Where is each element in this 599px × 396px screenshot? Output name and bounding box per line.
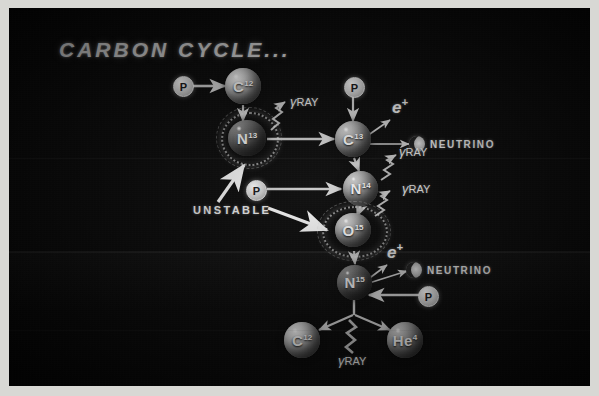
- proton-into-n15[interactable]: P: [418, 286, 439, 307]
- lighting-seam: [9, 252, 590, 310]
- proton-label: P: [351, 82, 358, 94]
- proton-into-c13[interactable]: P: [344, 77, 365, 98]
- positron-c13-label: e+: [392, 96, 408, 118]
- sphere-highlight: [343, 219, 349, 223]
- neutrino-n15-label: NEUTRINO: [427, 265, 492, 276]
- neutrino-c13-label: NEUTRINO: [430, 139, 495, 150]
- nucleus-label: O15: [342, 223, 363, 238]
- page-title: CARBON CYCLE...: [59, 38, 291, 62]
- sphere-highlight: [233, 74, 239, 79]
- gamma-n14-label: γRAY: [399, 144, 427, 159]
- diagram-board: CARBON CYCLE... C12 N13 C13 N14 O15: [9, 8, 590, 386]
- gamma-o15-label: γRAY: [402, 181, 430, 196]
- proton-label: P: [253, 185, 260, 197]
- proton-into-c12[interactable]: P: [173, 76, 194, 97]
- nucleus-label: C12: [233, 79, 253, 94]
- nucleus-n15[interactable]: N15: [337, 265, 372, 300]
- nucleus-c13[interactable]: C13: [335, 121, 371, 157]
- neutrino-n15-icon: [406, 262, 422, 278]
- photograph-print: CARBON CYCLE... C12 N13 C13 N14 O15: [0, 0, 599, 396]
- proton-label: P: [425, 291, 432, 303]
- nucleus-label: C13: [343, 132, 363, 147]
- nucleus-n13[interactable]: N13: [228, 120, 266, 156]
- sphere-highlight: [395, 328, 401, 333]
- nucleus-label: C12: [292, 333, 312, 348]
- unstable-label: UNSTABLE: [193, 204, 271, 216]
- gamma-fission-label: γRAY: [338, 353, 366, 368]
- gamma-n13-label: γRAY: [290, 94, 318, 109]
- lighting-seam: [9, 158, 590, 159]
- sphere-highlight: [343, 127, 349, 132]
- lighting-seam: [9, 251, 590, 253]
- proton-into-n14[interactable]: P: [246, 180, 267, 201]
- nucleus-c12-bottom[interactable]: C12: [284, 322, 320, 358]
- nucleus-o15[interactable]: O15: [335, 213, 371, 247]
- sphere-highlight: [292, 328, 298, 333]
- nucleus-label: He4: [393, 333, 418, 348]
- nucleus-c12-top[interactable]: C12: [225, 68, 261, 104]
- positron-n15-label: e+: [387, 241, 403, 263]
- nucleus-label: N14: [350, 181, 370, 196]
- nucleus-he4[interactable]: He4: [387, 322, 423, 358]
- nucleus-label: N15: [344, 275, 364, 290]
- proton-label: P: [180, 81, 187, 93]
- nucleus-label: N13: [237, 131, 257, 146]
- nucleus-n14[interactable]: N14: [343, 171, 378, 206]
